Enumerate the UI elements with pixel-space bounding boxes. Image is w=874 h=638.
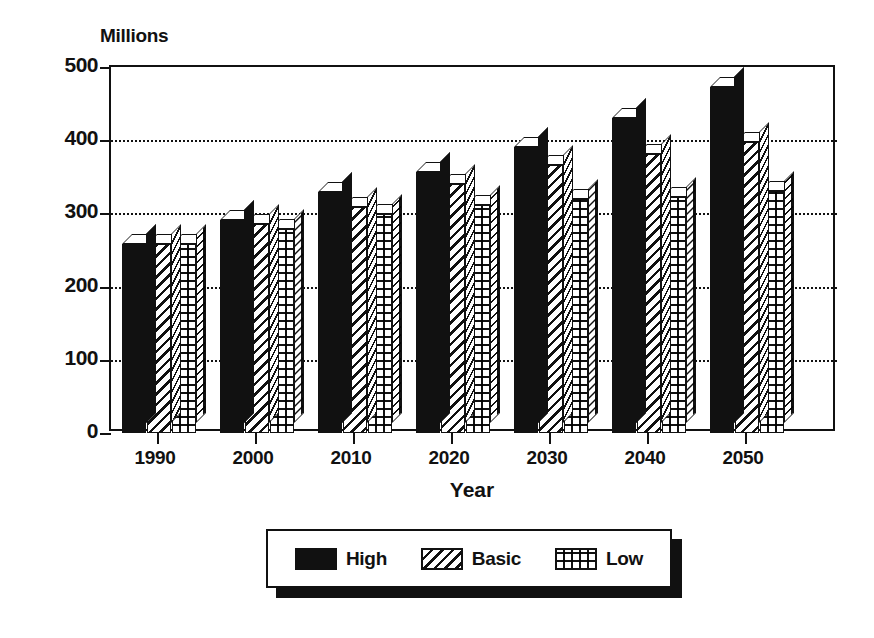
y-axis-label-100: 100 [38, 346, 98, 370]
y-axis-label-200: 200 [38, 273, 98, 297]
x-axis-label-2040: 2040 [600, 447, 690, 469]
x-tick-2000 [255, 433, 257, 444]
legend-label-high: High [346, 548, 387, 570]
x-axis-title: Year [109, 478, 835, 502]
bar-high-2030 [514, 137, 548, 433]
bar-side-face [661, 134, 671, 423]
x-axis-label-1990: 1990 [110, 447, 200, 469]
bar-side-face [171, 224, 181, 423]
legend-label-basic: Basic [472, 548, 521, 570]
bar-side-face [784, 171, 794, 423]
bar-side-face [294, 209, 304, 423]
x-tick-2020 [451, 433, 453, 444]
legend-item-basic: Basic [421, 548, 521, 570]
legend-swatch-high [295, 548, 337, 570]
bar-side-face [465, 164, 475, 423]
x-tick-2040 [647, 433, 649, 444]
y-tick-200 [100, 287, 111, 289]
x-tick-2010 [353, 433, 355, 444]
bar-side-face [244, 200, 254, 423]
x-axis-label-2020: 2020 [404, 447, 494, 469]
bar-side-face [759, 122, 769, 423]
bar-side-face [734, 67, 744, 423]
bar-side-face [269, 204, 279, 423]
y-tick-400 [100, 140, 111, 142]
y-tick-0 [100, 433, 111, 435]
bar-front-face [612, 118, 636, 433]
legend-swatch-basic [421, 548, 463, 570]
legend: HighBasicLow [266, 529, 672, 588]
x-tick-2030 [549, 433, 551, 444]
plot-area [109, 65, 835, 431]
y-axis-label-300: 300 [38, 199, 98, 223]
y-tick-100 [100, 360, 111, 362]
legend-item-high: High [295, 548, 387, 570]
bar-side-face [490, 185, 500, 423]
y-axis-label-0: 0 [38, 419, 98, 443]
y-axis-label-500: 500 [38, 53, 98, 77]
bar-side-face [367, 187, 377, 423]
bar-high-1990 [122, 234, 156, 433]
y-tick-500 [100, 67, 111, 69]
y-axis-unit-label: Millions [100, 25, 168, 47]
bar-front-face [122, 244, 146, 433]
bar-front-face [710, 87, 734, 433]
bar-front-face [416, 172, 440, 433]
legend-label-low: Low [606, 548, 643, 570]
bar-side-face [342, 172, 352, 423]
bar-high-2000 [220, 210, 254, 433]
x-axis-label-2030: 2030 [502, 447, 592, 469]
x-axis-label-2000: 2000 [208, 447, 298, 469]
bar-side-face [392, 194, 402, 423]
bar-front-face [514, 147, 538, 433]
y-axis-label-400: 400 [38, 126, 98, 150]
bar-chart: Millions 0100200300400500 19902000201020… [0, 0, 874, 638]
legend-item-low: Low [555, 548, 643, 570]
bar-high-2020 [416, 162, 450, 433]
x-axis-label-2010: 2010 [306, 447, 396, 469]
x-tick-1990 [157, 433, 159, 444]
x-tick-2050 [745, 433, 747, 444]
bar-side-face [563, 145, 573, 423]
bar-high-2040 [612, 108, 646, 433]
bar-side-face [686, 177, 696, 423]
bar-front-face [318, 192, 342, 433]
bar-high-2010 [318, 182, 352, 433]
y-tick-300 [100, 213, 111, 215]
bar-side-face [196, 224, 206, 423]
bar-high-2050 [710, 77, 744, 433]
legend-swatch-low [555, 548, 597, 570]
bar-side-face [538, 127, 548, 423]
bar-front-face [220, 220, 244, 433]
bar-side-face [146, 224, 156, 423]
bar-side-face [636, 98, 646, 423]
x-axis-label-2050: 2050 [698, 447, 788, 469]
bar-side-face [440, 152, 450, 423]
bar-side-face [588, 179, 598, 423]
